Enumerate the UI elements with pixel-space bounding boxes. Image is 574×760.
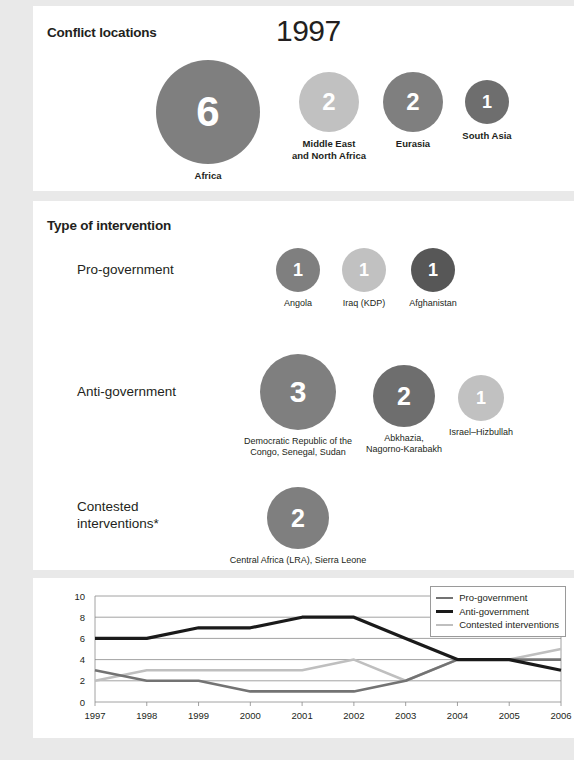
- legend-item: Anti-government: [436, 605, 559, 619]
- bubble-group: 1Afghanistan: [343, 248, 523, 309]
- panel-title-conflict-locations: Conflict locations: [47, 25, 157, 40]
- intervention-trend-panel: 0246810199719981999200020012002200320042…: [33, 578, 574, 738]
- y-axis-tick-label: 2: [80, 675, 85, 686]
- x-axis-tick-label: 1999: [188, 710, 209, 721]
- x-axis-tick-label: 2006: [550, 710, 571, 721]
- bubble-value: 3: [290, 375, 307, 409]
- y-axis-tick-label: 10: [74, 591, 85, 602]
- bubble-group: 1South Asia: [397, 80, 574, 142]
- x-axis-tick-label: 2004: [447, 710, 468, 721]
- y-axis-tick-label: 4: [80, 654, 85, 665]
- x-axis-tick-label: 1997: [84, 710, 105, 721]
- chart-legend: Pro-governmentAnti-governmentContested i…: [430, 586, 566, 637]
- legend-item: Pro-government: [436, 591, 559, 605]
- y-axis-tick-label: 8: [80, 612, 85, 623]
- bubble-circle: 2: [267, 487, 329, 549]
- bubble-label: Africa: [118, 170, 298, 182]
- bubble-label: Central Africa (LRA), Sierra Leone: [208, 555, 388, 566]
- bubble-circle: 1: [465, 80, 509, 124]
- x-axis-tick-label: 2002: [343, 710, 364, 721]
- bubble-circle: 1: [458, 375, 504, 421]
- bubble-label: Afghanistan: [343, 298, 523, 309]
- legend-label: Contested interventions: [459, 618, 559, 632]
- bubble-value: 1: [482, 92, 492, 113]
- legend-label: Anti-government: [459, 605, 529, 619]
- bubble-value: 1: [476, 388, 486, 409]
- intervention-row-label: Pro-government: [77, 261, 174, 278]
- intervention-row-label: Anti-government: [77, 383, 176, 400]
- bubble-circle: 1: [411, 248, 455, 292]
- legend-label: Pro-government: [459, 591, 527, 605]
- y-axis-tick-label: 6: [80, 633, 85, 644]
- bubble-label: South Asia: [397, 130, 574, 142]
- type-of-intervention-panel: Type of intervention Pro-government1Ango…: [33, 201, 574, 570]
- conflict-locations-panel: Conflict locations 1997 6Africa2Middle E…: [33, 6, 574, 191]
- bubble-value: 1: [428, 260, 438, 281]
- legend-swatch: [436, 610, 453, 613]
- x-axis-tick-label: 1998: [136, 710, 157, 721]
- x-axis-tick-label: 2005: [499, 710, 520, 721]
- x-axis-tick-label: 2000: [240, 710, 261, 721]
- year-label: 1997: [276, 14, 341, 48]
- y-axis-tick-label: 0: [80, 697, 85, 708]
- bubble-group: 2Central Africa (LRA), Sierra Leone: [208, 487, 388, 566]
- x-axis-tick-label: 2001: [292, 710, 313, 721]
- x-axis-tick-label: 2003: [395, 710, 416, 721]
- intervention-row-label: Contested interventions*: [77, 498, 159, 532]
- legend-item: Contested interventions: [436, 618, 559, 632]
- panel-title-type-of-intervention: Type of intervention: [47, 218, 171, 233]
- bubble-group: 1Israel–Hizbullah: [391, 375, 571, 438]
- bubble-value: 2: [291, 504, 305, 533]
- legend-swatch: [436, 624, 453, 626]
- bubble-label: Israel–Hizbullah: [391, 427, 571, 438]
- legend-swatch: [436, 597, 453, 599]
- bubble-value: 6: [196, 88, 219, 136]
